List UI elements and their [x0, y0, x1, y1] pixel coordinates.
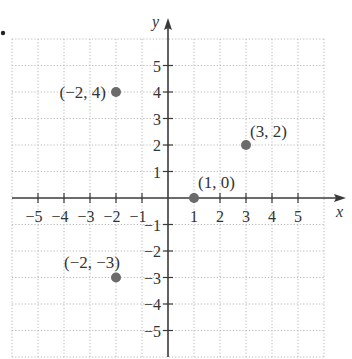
data-point: [111, 87, 121, 97]
point-label: (−2, −3): [64, 253, 120, 272]
y-tick-label: 2: [153, 137, 161, 154]
y-tick-label: −4: [144, 296, 161, 313]
x-tick-label: −3: [77, 208, 94, 225]
data-points: (−2, 4)(3, 2)(1, 0)(−2, −3): [60, 83, 287, 283]
y-tick-label: 3: [153, 111, 161, 128]
y-tick-label: −5: [144, 323, 161, 340]
x-tick-label: −5: [25, 208, 42, 225]
y-tick-label: 4: [153, 84, 161, 101]
x-axis-label: x: [335, 203, 343, 220]
point-label: (3, 2): [250, 122, 287, 141]
bullet-marker: [1, 31, 5, 35]
y-tick-label: −2: [144, 243, 161, 260]
y-tick-label: −1: [144, 217, 161, 234]
y-tick-label: 1: [153, 164, 161, 181]
axes: xy: [12, 13, 346, 357]
coordinate-plane: xy −5−4−3−2−112345−5−4−3−2−112345 (−2, 4…: [0, 0, 352, 359]
x-tick-label: −4: [51, 208, 68, 225]
data-point: [189, 193, 199, 203]
data-point: [111, 273, 121, 283]
x-tick-label: 3: [242, 208, 250, 225]
point-label: (−2, 4): [60, 83, 106, 102]
data-point: [241, 140, 251, 150]
x-tick-label: 5: [294, 208, 302, 225]
x-tick-label: 2: [216, 208, 224, 225]
y-axis-label: y: [150, 13, 160, 31]
x-tick-label: 4: [268, 208, 276, 225]
x-tick-label: −2: [103, 208, 120, 225]
y-tick-label: −3: [144, 270, 161, 287]
y-tick-label: 5: [153, 58, 161, 75]
point-label: (1, 0): [198, 173, 235, 192]
x-tick-label: 1: [190, 208, 198, 225]
